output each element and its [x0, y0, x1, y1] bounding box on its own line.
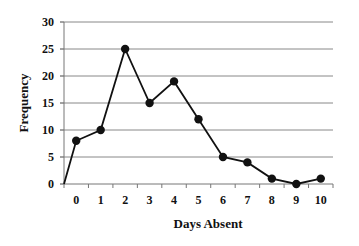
axes — [60, 22, 333, 188]
data-point-marker — [219, 153, 227, 161]
x-tick-label: 5 — [196, 193, 202, 207]
data-point-marker — [121, 45, 129, 53]
x-tick-label: 0 — [73, 193, 79, 207]
y-tick-label: 15 — [42, 96, 54, 110]
data-point-marker — [96, 126, 104, 134]
data-line — [64, 49, 321, 184]
x-tick-label: 8 — [269, 193, 275, 207]
x-tick-labels: 012345678910 — [73, 193, 327, 207]
data-point-marker — [292, 180, 300, 188]
x-tick-label: 7 — [244, 193, 250, 207]
x-tick-label: 6 — [220, 193, 226, 207]
data-markers — [72, 45, 325, 188]
y-tick-label: 20 — [42, 69, 54, 83]
y-axis-title: Frequency — [16, 73, 31, 132]
x-tick-label: 1 — [98, 193, 104, 207]
data-point-marker — [145, 99, 153, 107]
data-point-marker — [243, 158, 251, 166]
y-tick-label: 5 — [48, 150, 54, 164]
x-tick-label: 10 — [315, 193, 327, 207]
y-tick-label: 0 — [48, 177, 54, 191]
y-tick-label: 25 — [42, 42, 54, 56]
gridlines — [64, 22, 333, 157]
frequency-line-chart: 051015202530 012345678910 Days Absent Fr… — [0, 0, 359, 246]
data-point-marker — [268, 174, 276, 182]
y-tick-labels: 051015202530 — [42, 15, 54, 191]
x-tick-label: 4 — [171, 193, 177, 207]
data-point-marker — [72, 137, 80, 145]
data-point-marker — [194, 115, 202, 123]
data-point-marker — [170, 77, 178, 85]
y-tick-label: 10 — [42, 123, 54, 137]
x-tick-label: 9 — [293, 193, 299, 207]
x-tick-label: 3 — [147, 193, 153, 207]
x-tick-label: 2 — [122, 193, 128, 207]
x-axis-title: Days Absent — [174, 216, 244, 231]
y-tick-label: 30 — [42, 15, 54, 29]
data-point-marker — [317, 174, 325, 182]
